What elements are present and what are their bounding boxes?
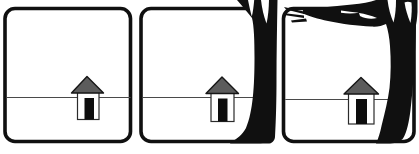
comic-strip <box>0 0 419 154</box>
panel-3 <box>283 0 418 144</box>
panel-1 <box>5 9 131 142</box>
panel-2 <box>141 0 278 144</box>
house-door <box>85 98 95 120</box>
house-door <box>356 99 367 124</box>
comic-canvas <box>0 0 419 154</box>
house-door <box>218 99 228 122</box>
panel-1-frame <box>5 9 131 142</box>
